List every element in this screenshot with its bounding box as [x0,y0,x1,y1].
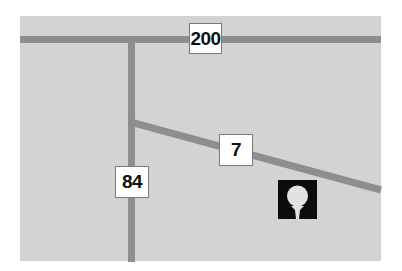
route-label: 84 [122,171,142,193]
route-shield-200: 200 [189,23,222,54]
golf-course-marker[interactable] [278,180,317,219]
route-label: 7 [231,139,241,161]
route-shield-84: 84 [115,166,149,198]
golf-ball-on-tee-icon [278,180,317,219]
route-shield-7: 7 [219,134,253,166]
route-label: 200 [190,28,220,50]
